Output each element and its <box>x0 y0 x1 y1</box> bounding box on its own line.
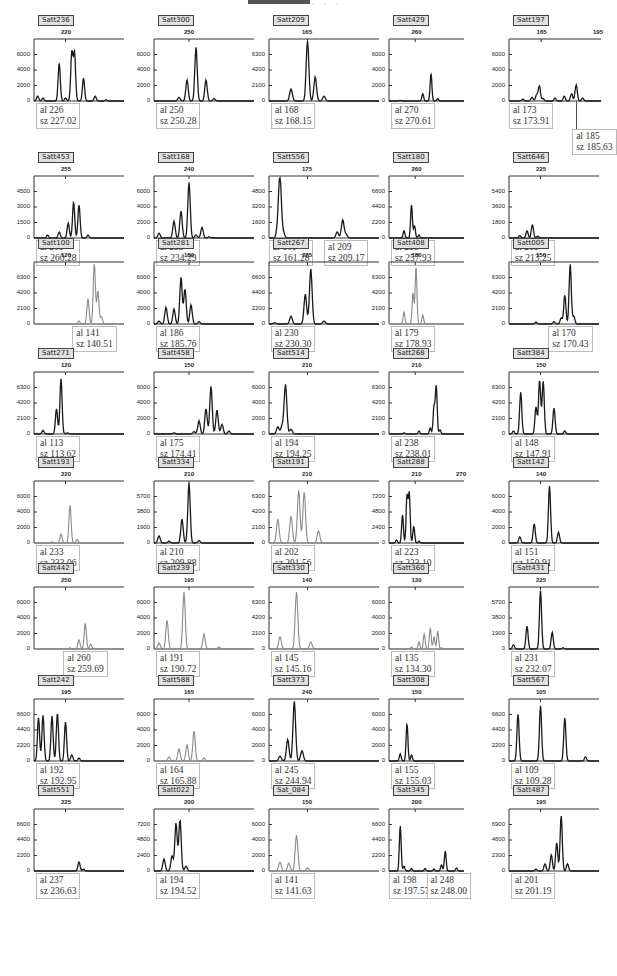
y-tick-label: 4000 <box>6 508 30 514</box>
y-tick-label: 4000 <box>241 836 265 842</box>
marker-label: Satt197 <box>513 15 549 26</box>
x-axis-label: 225 <box>302 252 312 258</box>
allele-callout: al 141sz 140.51 <box>72 326 116 352</box>
y-tick-label: 2100 <box>241 630 265 636</box>
y-tick-label: 6000 <box>241 711 265 717</box>
y-tick-label: 0 <box>241 539 265 545</box>
marker-label: Satt556 <box>273 152 309 163</box>
x-axis-label: 150 <box>412 689 422 695</box>
marker-label: Satt300 <box>158 15 194 26</box>
y-tick-label: 1600 <box>241 219 265 225</box>
y-tick-label: 6300 <box>481 274 505 280</box>
y-tick-label: 2400 <box>361 524 385 530</box>
y-tick-label: 4200 <box>6 289 30 295</box>
x-axis-label: 175 <box>302 166 312 172</box>
x-axis-label: 120 <box>61 362 71 368</box>
y-tick-label: 0 <box>6 430 30 436</box>
y-tick-label: 4600 <box>481 836 505 842</box>
y-tick-label: 1800 <box>481 219 505 225</box>
allele-value: al 245 <box>275 765 311 776</box>
y-tick-label: 0 <box>6 645 30 651</box>
y-tick-label: 2000 <box>481 82 505 88</box>
marker-label: Satt334 <box>158 457 194 468</box>
allele-value: al 194 <box>160 875 196 886</box>
trace-plot <box>389 481 464 543</box>
trace-plot <box>34 262 124 324</box>
y-tick-label: 4800 <box>241 188 265 194</box>
allele-callout: al 260sz 259.69 <box>63 651 107 677</box>
allele-callout: al 141sz 141.63 <box>271 873 315 899</box>
size-value: sz 270.61 <box>395 116 431 127</box>
y-tick-label: 0 <box>481 539 505 545</box>
marker-label: Satt345 <box>393 785 429 796</box>
y-tick-label: 4400 <box>361 203 385 209</box>
allele-value: al 155 <box>395 765 431 776</box>
x-axis-label: 165 <box>537 29 547 35</box>
marker-label: Satt646 <box>513 152 549 163</box>
y-tick-label: 4200 <box>241 66 265 72</box>
allele-callout: al 201sz 201.19 <box>511 873 555 899</box>
allele-value: al 141 <box>76 328 112 339</box>
allele-value: al 141 <box>275 875 311 886</box>
y-tick-label: 0 <box>241 430 265 436</box>
x-axis-label: 200 <box>184 799 194 805</box>
marker-label: Satt408 <box>393 238 429 249</box>
x-axis-label: 130 <box>412 577 422 583</box>
x-axis-label: 240 <box>184 166 194 172</box>
y-tick-label: 6000 <box>126 711 150 717</box>
x-axis-label: 165 <box>302 29 312 35</box>
allele-callout: al 248sz 248.00 <box>427 873 471 899</box>
y-tick-label: 0 <box>241 97 265 103</box>
marker-label: Satt267 <box>273 238 309 249</box>
trace-plot <box>509 699 599 761</box>
size-value: sz 227.02 <box>40 116 76 127</box>
y-tick-label: 2200 <box>361 852 385 858</box>
y-tick-label: 0 <box>6 97 30 103</box>
allele-value: al 237 <box>40 875 76 886</box>
y-tick-label: 0 <box>126 757 150 763</box>
marker-label: Satt180 <box>393 152 429 163</box>
x-axis-label: 250 <box>184 29 194 35</box>
marker-label: Satt242 <box>38 675 74 686</box>
allele-value: al 238 <box>395 438 431 449</box>
y-tick-label: 4400 <box>241 289 265 295</box>
y-tick-label: 1500 <box>6 219 30 225</box>
size-value: sz 259.69 <box>67 664 103 675</box>
allele-callout: al 170sz 170.43 <box>548 326 592 352</box>
x-axis-label: 195 <box>536 799 546 805</box>
y-tick-label: 2100 <box>6 305 30 311</box>
trace-plot <box>154 809 254 871</box>
y-tick-label: 6600 <box>361 188 385 194</box>
allele-value: al 223 <box>395 547 431 558</box>
marker-label: Satt458 <box>158 348 194 359</box>
y-tick-label: 6300 <box>361 274 385 280</box>
trace-plot <box>509 809 599 871</box>
trace-plot <box>389 176 464 238</box>
y-tick-label: 4800 <box>361 508 385 514</box>
trace-plot <box>154 176 254 238</box>
trace-plot <box>154 587 254 649</box>
x-axis-label: 225 <box>536 577 546 583</box>
marker-label: Satt268 <box>393 348 429 359</box>
trace-plot <box>509 39 601 101</box>
marker-label: Sat_084 <box>273 785 309 796</box>
marker-label: Satt191 <box>273 457 309 468</box>
y-tick-label: 6300 <box>6 384 30 390</box>
size-value: sz 140.51 <box>76 339 112 350</box>
allele-callout: al 168sz 168.15 <box>271 103 315 129</box>
y-tick-label: 6600 <box>6 821 30 827</box>
y-tick-label: 4000 <box>241 399 265 405</box>
marker-label: Satt384 <box>513 348 549 359</box>
allele-value: al 230 <box>275 328 311 339</box>
y-tick-label: 2000 <box>241 742 265 748</box>
x-axis-label: 180 <box>412 252 422 258</box>
header-dots: · · · <box>312 0 342 7</box>
y-tick-label: 2400 <box>126 852 150 858</box>
y-tick-label: 6000 <box>241 384 265 390</box>
trace-plot <box>389 587 464 649</box>
allele-value: al 148 <box>515 438 551 449</box>
y-tick-label: 0 <box>361 539 385 545</box>
size-value: sz 141.63 <box>275 886 311 897</box>
trace-plot <box>389 39 464 101</box>
y-tick-label: 4000 <box>126 203 150 209</box>
